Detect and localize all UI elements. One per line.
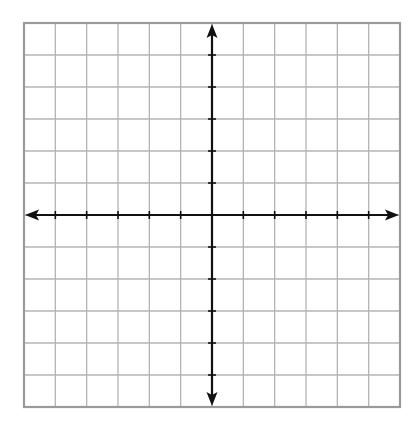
coordinate-plane — [0, 0, 419, 425]
